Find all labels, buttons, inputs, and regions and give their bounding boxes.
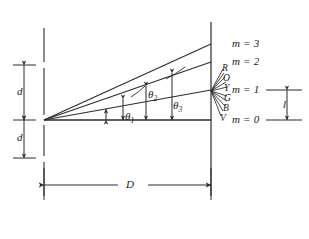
order-label-m3: m = 3 [232,38,259,49]
diffraction-grating-figure: m = 3 m = 2 m = 1 m = 0 θ1 θ2 θ3 d d D l… [0,0,309,239]
angle-label-theta3: θ3 [173,100,182,114]
spectrum-label-violet: V [220,114,226,124]
theta2-subscript: 2 [153,94,157,103]
angle-label-theta1: θ1 [125,111,134,125]
dimension-label-l: l [283,99,286,110]
dimension-label-d-lower: d [17,132,23,143]
figure-drawing-canvas [0,0,309,239]
order-label-m0: m = 0 [232,114,259,125]
angle-arcs [131,67,185,97]
order-label-m1: m = 1 [232,84,259,95]
angle-indicator-arrows [106,73,172,120]
slit-spacing-dimension [13,65,36,158]
order-label-m2: m = 2 [232,56,259,67]
ray-order-3 [44,44,211,120]
theta3-arc [166,67,185,79]
theta1-subscript: 1 [130,116,134,125]
dimension-label-D: D [126,179,134,190]
dimension-label-d-upper: d [17,86,23,97]
diffracted-rays [44,44,211,120]
theta3-subscript: 3 [178,105,182,114]
angle-label-theta2: θ2 [148,89,157,103]
